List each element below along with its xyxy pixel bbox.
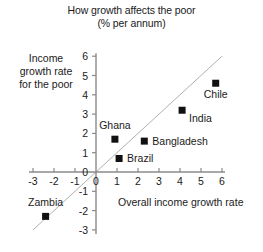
x-axis-tick-label: -3 [28, 175, 37, 187]
x-axis-tick-label: 3 [156, 175, 162, 187]
plot-area: -3-2-10123456-3-2-10123456ZambiaBrazilGh… [0, 0, 263, 252]
data-point-label: Bangladesh [152, 135, 208, 147]
y-axis-tick-label: 2 [82, 127, 88, 139]
data-point-marker[interactable] [212, 80, 219, 87]
data-point-marker[interactable] [111, 136, 118, 143]
data-point-label: Zambia [28, 196, 63, 208]
x-axis-tick-label: 1 [114, 175, 120, 187]
y-axis-tick-label: 1 [82, 147, 88, 159]
y-axis-tick-label: -3 [79, 224, 88, 236]
x-axis-tick-label: -2 [49, 175, 58, 187]
chart-container: How growth affects the poor (% per annum… [0, 0, 263, 252]
data-point-marker[interactable] [179, 107, 186, 114]
x-axis-tick-label: 5 [198, 175, 204, 187]
y-axis-tick-label: 6 [82, 50, 88, 62]
y-axis-tick-label: 3 [82, 108, 88, 120]
y-axis-tick-label: 4 [82, 89, 88, 101]
x-axis-tick-label: 4 [177, 175, 183, 187]
data-point-label: Chile [204, 88, 228, 100]
x-axis-tick-label: 0 [93, 175, 99, 187]
y-axis-tick-label: -2 [79, 205, 88, 217]
data-point-marker[interactable] [116, 155, 123, 162]
y-axis-tick-label: 0 [82, 166, 88, 178]
data-point-label: Brazil [127, 152, 153, 164]
data-point-label: India [189, 112, 212, 124]
data-point-marker[interactable] [42, 213, 49, 220]
data-point-label: Ghana [99, 119, 131, 131]
x-axis-tick-label: 2 [135, 175, 141, 187]
x-axis-tick-label: 6 [219, 175, 225, 187]
y-axis-tick-label: 5 [82, 70, 88, 82]
data-point-marker[interactable] [141, 138, 148, 145]
y-axis-tick-label: -1 [79, 185, 88, 197]
